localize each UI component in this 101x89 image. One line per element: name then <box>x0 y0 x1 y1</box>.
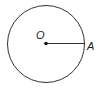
center-label: O <box>36 29 45 41</box>
point-label: A <box>86 40 94 52</box>
center-point <box>44 42 48 46</box>
circle-diagram: O A <box>0 0 101 89</box>
